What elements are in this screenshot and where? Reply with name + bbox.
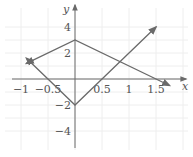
y-tick-label: −4 — [55, 125, 71, 138]
x-tick-label: −1 — [13, 83, 29, 96]
graph-plot: xy−1−0.50.511.542−2−4 — [0, 0, 193, 157]
x-tick-label: 1.5 — [147, 83, 165, 96]
x-axis-label: x — [182, 80, 189, 93]
x-tick-label: 1 — [126, 83, 133, 96]
x-tick-label: −0.5 — [35, 83, 62, 96]
y-tick-label: −2 — [55, 99, 71, 112]
y-tick-label: 2 — [64, 47, 71, 60]
y-axis-label: y — [62, 3, 70, 16]
y-tick-label: 4 — [64, 21, 71, 34]
